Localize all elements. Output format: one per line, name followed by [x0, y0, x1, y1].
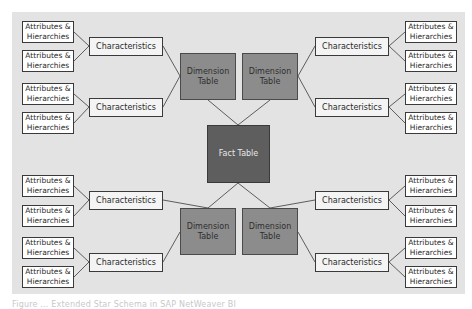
hierarchies-label: Hierarchies [25, 277, 70, 287]
attributes-hierarchies-box: Attributes &Hierarchies [22, 175, 74, 197]
attributes-label: Attributes & [25, 176, 70, 186]
attributes-label: Attributes & [25, 84, 70, 94]
attributes-label: Attributes & [408, 206, 453, 216]
attributes-label: Attributes & [25, 206, 70, 216]
dimension-table-top-right: Dimension Table [242, 53, 298, 100]
attributes-hierarchies-box: Attributes &Hierarchies [22, 266, 74, 288]
attributes-label: Attributes & [408, 176, 453, 186]
attributes-hierarchies-box: Attributes &Hierarchies [22, 83, 74, 105]
attributes-label: Attributes & [408, 84, 453, 94]
figure-caption: Figure ... Extended Star Schema in SAP N… [12, 300, 236, 309]
hierarchies-label: Hierarchies [25, 248, 70, 258]
characteristics-box: Characteristics [89, 98, 163, 117]
characteristics-box: Characteristics [89, 253, 163, 272]
attributes-label: Attributes & [408, 238, 453, 248]
characteristics-box: Characteristics [89, 37, 163, 56]
attributes-hierarchies-box: Attributes &Hierarchies [405, 237, 457, 259]
characteristics-label: Characteristics [96, 196, 156, 206]
hierarchies-label: Hierarchies [25, 94, 70, 104]
hierarchies-label: Hierarchies [408, 61, 453, 71]
dimension-table-label: Dimension Table [187, 67, 230, 87]
attributes-label: Attributes & [25, 51, 70, 61]
attributes-hierarchies-box: Attributes &Hierarchies [22, 112, 74, 134]
characteristics-label: Characteristics [322, 42, 382, 52]
attributes-hierarchies-box: Attributes &Hierarchies [22, 205, 74, 227]
dimension-table-label: Dimension Table [249, 222, 292, 242]
characteristics-box: Characteristics [315, 98, 389, 117]
characteristics-label: Characteristics [96, 42, 156, 52]
dimension-table-label: Dimension Table [249, 67, 292, 87]
dimension-table-top-left: Dimension Table [180, 53, 236, 100]
characteristics-label: Characteristics [322, 258, 382, 268]
attributes-label: Attributes & [408, 22, 453, 32]
hierarchies-label: Hierarchies [408, 216, 453, 226]
hierarchies-label: Hierarchies [408, 186, 453, 196]
characteristics-label: Characteristics [96, 258, 156, 268]
attributes-hierarchies-box: Attributes &Hierarchies [22, 237, 74, 259]
hierarchies-label: Hierarchies [408, 32, 453, 42]
attributes-label: Attributes & [408, 51, 453, 61]
characteristics-box: Characteristics [315, 37, 389, 56]
attributes-hierarchies-box: Attributes &Hierarchies [405, 50, 457, 72]
hierarchies-label: Hierarchies [25, 123, 70, 133]
attributes-label: Attributes & [408, 113, 453, 123]
hierarchies-label: Hierarchies [25, 186, 70, 196]
hierarchies-label: Hierarchies [408, 248, 453, 258]
characteristics-box: Characteristics [315, 253, 389, 272]
attributes-hierarchies-box: Attributes &Hierarchies [405, 21, 457, 43]
fact-table-label: Fact Table [219, 149, 259, 159]
attributes-hierarchies-box: Attributes &Hierarchies [405, 83, 457, 105]
attributes-hierarchies-box: Attributes &Hierarchies [405, 266, 457, 288]
attributes-label: Attributes & [25, 267, 70, 277]
characteristics-label: Characteristics [96, 103, 156, 113]
attributes-label: Attributes & [25, 22, 70, 32]
dimension-table-bottom-left: Dimension Table [180, 208, 236, 255]
attributes-hierarchies-box: Attributes &Hierarchies [405, 112, 457, 134]
attributes-hierarchies-box: Attributes &Hierarchies [405, 205, 457, 227]
hierarchies-label: Hierarchies [25, 61, 70, 71]
characteristics-label: Characteristics [322, 196, 382, 206]
hierarchies-label: Hierarchies [408, 277, 453, 287]
attributes-label: Attributes & [408, 267, 453, 277]
hierarchies-label: Hierarchies [408, 123, 453, 133]
attributes-hierarchies-box: Attributes &Hierarchies [405, 175, 457, 197]
dimension-table-bottom-right: Dimension Table [242, 208, 298, 255]
attributes-hierarchies-box: Attributes &Hierarchies [22, 21, 74, 43]
dimension-table-label: Dimension Table [187, 222, 230, 242]
attributes-hierarchies-box: Attributes &Hierarchies [22, 50, 74, 72]
characteristics-label: Characteristics [322, 103, 382, 113]
attributes-label: Attributes & [25, 113, 70, 123]
attributes-label: Attributes & [25, 238, 70, 248]
hierarchies-label: Hierarchies [25, 216, 70, 226]
fact-table: Fact Table [207, 125, 270, 183]
characteristics-box: Characteristics [315, 191, 389, 210]
characteristics-box: Characteristics [89, 191, 163, 210]
hierarchies-label: Hierarchies [25, 32, 70, 42]
hierarchies-label: Hierarchies [408, 94, 453, 104]
